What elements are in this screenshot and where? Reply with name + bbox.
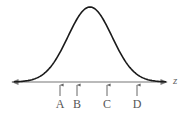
marker-label-b: B — [73, 98, 81, 110]
normal-curve-diagram: z A B C D — [0, 0, 186, 115]
marker-label-c: C — [103, 98, 111, 110]
normal-curve — [14, 7, 166, 82]
marker-label-a: A — [56, 98, 65, 110]
marker-label-d: D — [133, 98, 142, 110]
marker-arrows-group — [60, 85, 137, 96]
z-axis-label: z — [173, 75, 177, 86]
normal-curve-svg — [0, 0, 186, 115]
